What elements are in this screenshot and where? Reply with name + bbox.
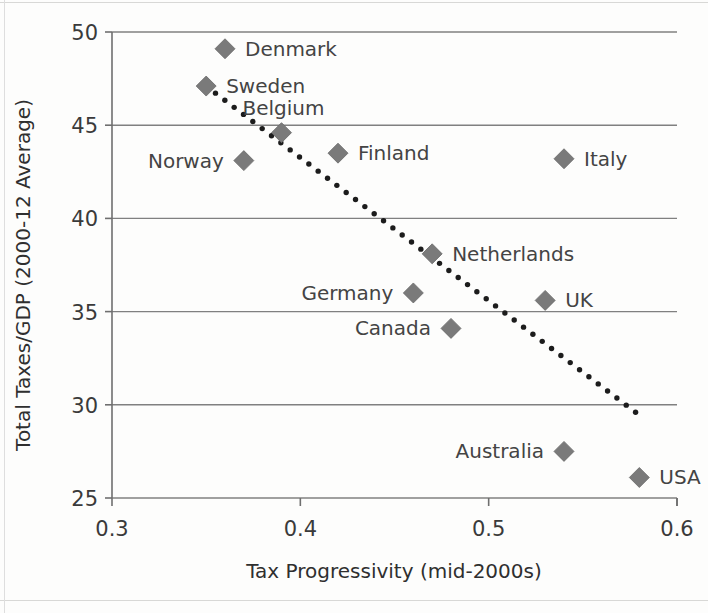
point-label-usa: USA bbox=[659, 465, 701, 489]
data-point-usa bbox=[629, 467, 649, 487]
trendline-dot bbox=[512, 317, 517, 322]
trendline-dot bbox=[390, 225, 395, 230]
x-axis-title: Tax Progressivity (mid-2000s) bbox=[245, 559, 542, 583]
trendline-dot bbox=[586, 374, 591, 379]
y-tick-label-45: 45 bbox=[71, 114, 98, 138]
x-tick-label-0.3: 0.3 bbox=[95, 517, 128, 541]
y-axis-title: Total Taxes/GDP (2000-12 Average) bbox=[11, 99, 35, 452]
trendline-dot bbox=[409, 239, 414, 244]
point-label-canada: Canada bbox=[355, 316, 431, 340]
trendline-dot bbox=[259, 126, 264, 131]
plot-area: 504540353025 0.30.40.50.6 DenmarkSwedenB… bbox=[0, 0, 708, 613]
trendline-dot bbox=[614, 395, 619, 400]
trendline-dot bbox=[456, 275, 461, 280]
y-axis-tick-labels: 504540353025 bbox=[71, 21, 98, 511]
x-tick-label-0.5: 0.5 bbox=[472, 517, 505, 541]
trendline-dot bbox=[399, 232, 404, 237]
data-point-canada bbox=[441, 318, 461, 338]
point-label-finland: Finland bbox=[358, 141, 429, 165]
trendline-dot bbox=[465, 282, 470, 287]
point-label-italy: Italy bbox=[584, 147, 628, 171]
point-label-netherlands: Netherlands bbox=[452, 242, 574, 266]
trendline-dot bbox=[484, 296, 489, 301]
point-label-belgium: Belgium bbox=[243, 96, 325, 120]
trendline-dot bbox=[596, 381, 601, 386]
data-point-norway bbox=[234, 151, 254, 171]
trendline-dot bbox=[306, 161, 311, 166]
trendline-dot bbox=[362, 204, 367, 209]
y-tick-label-40: 40 bbox=[71, 207, 98, 231]
y-tick-label-30: 30 bbox=[71, 394, 98, 418]
trendline-dot bbox=[549, 346, 554, 351]
trendline-dot bbox=[446, 268, 451, 273]
data-point-italy bbox=[554, 149, 574, 169]
point-label-denmark: Denmark bbox=[245, 37, 337, 61]
trendline-dot bbox=[624, 402, 629, 407]
point-label-sweden: Sweden bbox=[226, 74, 305, 98]
x-tick-label-0.6: 0.6 bbox=[660, 517, 693, 541]
trendline-dot bbox=[633, 410, 638, 415]
trendline-dot bbox=[371, 211, 376, 216]
trendline-dot bbox=[381, 218, 386, 223]
y-tick-label-35: 35 bbox=[71, 301, 98, 325]
trendline-dot bbox=[325, 176, 330, 181]
trendline-dot bbox=[343, 190, 348, 195]
data-point-australia bbox=[554, 441, 574, 461]
point-label-germany: Germany bbox=[301, 281, 393, 305]
trendline-dot bbox=[558, 353, 563, 358]
trendline-dot bbox=[474, 289, 479, 294]
trendline-dot bbox=[315, 168, 320, 173]
trendline-dot bbox=[231, 105, 236, 110]
point-label-uk: UK bbox=[565, 288, 594, 312]
gridlines bbox=[112, 32, 677, 498]
data-point-uk bbox=[535, 290, 555, 310]
point-label-norway: Norway bbox=[148, 149, 224, 173]
trendline-dot bbox=[222, 98, 227, 103]
x-axis-tick-labels: 0.30.40.50.6 bbox=[95, 517, 693, 541]
data-point-labels: DenmarkSwedenBelgiumNorwayFinlandItalyNe… bbox=[148, 37, 701, 490]
x-tick-label-0.4: 0.4 bbox=[284, 517, 317, 541]
trendline-dot bbox=[568, 360, 573, 365]
trendline-dot bbox=[287, 147, 292, 152]
trendline-dot bbox=[502, 310, 507, 315]
data-point-germany bbox=[403, 283, 423, 303]
axis-lines bbox=[105, 32, 677, 506]
trendline-dot bbox=[418, 246, 423, 251]
point-label-australia: Australia bbox=[456, 439, 544, 463]
y-tick-label-25: 25 bbox=[71, 487, 98, 511]
trendline-dot bbox=[213, 90, 218, 95]
y-tick-label-50: 50 bbox=[71, 21, 98, 45]
trendline-dot bbox=[530, 332, 535, 337]
trendline-dot bbox=[437, 261, 442, 266]
scatter-chart-figure: 504540353025 0.30.40.50.6 DenmarkSwedenB… bbox=[0, 0, 708, 613]
trendline-dot bbox=[353, 197, 358, 202]
trendline-dot bbox=[577, 367, 582, 372]
trendline-dot bbox=[493, 303, 498, 308]
trendline-dot bbox=[297, 154, 302, 159]
trendline-dot bbox=[605, 388, 610, 393]
trendline-dot bbox=[334, 183, 339, 188]
trendline-dot bbox=[521, 324, 526, 329]
data-point-denmark bbox=[215, 39, 235, 59]
data-point-finland bbox=[328, 143, 348, 163]
trendline-dot bbox=[540, 339, 545, 344]
